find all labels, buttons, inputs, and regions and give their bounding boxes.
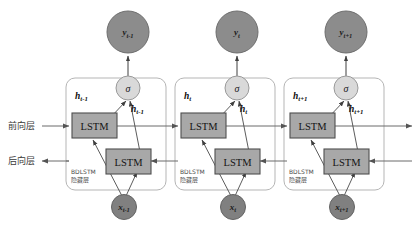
block-caption-line2-t: 隐藏层 (180, 176, 198, 184)
hidden-label-left-t-plus-1: ht+1 (293, 91, 307, 102)
bdlstm-diagram-figure: LSTM LSTM σ yt-1 xt-1 ht-1 ht-1 (0, 0, 419, 227)
hidden-label-right-t: ht (240, 104, 248, 115)
block-caption-line1-t: BDLSTM (180, 168, 205, 175)
timestep-t: LSTM LSTM σ yt xt ht ht BDLSTM 隐藏层 (180, 11, 260, 220)
block-caption-line2-t-minus-1: 隐藏层 (71, 176, 89, 184)
block-caption-line2-t-plus-1: 隐藏层 (289, 176, 307, 184)
block-caption-line1-t-plus-1: BDLSTM (289, 168, 314, 175)
timestep-t-plus-1: LSTM LSTM σ yt+1 xt+1 ht+1 ht+1 BDLSTM 隐… (289, 11, 369, 220)
timestep-t-minus-1: LSTM LSTM σ yt-1 xt-1 ht-1 ht-1 (71, 11, 151, 220)
block-caption-line1-t-minus-1: BDLSTM (71, 168, 96, 175)
backward-lstm-label-t-minus-1: LSTM (114, 157, 143, 168)
diagram-canvas: LSTM LSTM σ yt-1 xt-1 ht-1 ht-1 (0, 0, 419, 227)
backward-lstm-label-t: LSTM (223, 157, 252, 168)
forward-lstm-label-t-minus-1: LSTM (80, 121, 109, 132)
hidden-label-left-t-minus-1: ht-1 (75, 91, 88, 102)
backward-lstm-label-t-plus-1: LSTM (332, 157, 361, 168)
hidden-label-left-t: ht (184, 91, 192, 102)
backward-layer-label: 后向层 (8, 155, 35, 166)
forward-lstm-label-t: LSTM (189, 121, 218, 132)
forward-lstm-label-t-plus-1: LSTM (298, 121, 327, 132)
forward-layer-label: 前向层 (8, 120, 35, 131)
hidden-label-right-t-minus-1: ht-1 (131, 104, 144, 115)
hidden-label-right-t-plus-1: ht+1 (349, 104, 363, 115)
